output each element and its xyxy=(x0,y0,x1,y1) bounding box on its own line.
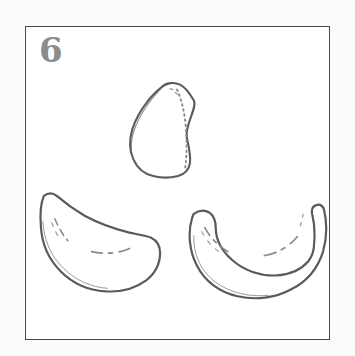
crescent-right-inner-crease-right xyxy=(264,237,297,256)
line-drawing-canvas xyxy=(26,27,329,339)
teardrop-outline xyxy=(130,83,194,178)
figure-root: 6 xyxy=(0,0,355,356)
illustration-frame: 6 xyxy=(25,26,330,340)
crescent-right-outline xyxy=(190,205,327,299)
pear-teardrop-shape xyxy=(130,83,194,178)
crescent-left-outline xyxy=(41,194,161,292)
crescent-right-inner-crease-right-tick xyxy=(300,210,303,226)
crescent-bowl-shape-right xyxy=(190,205,327,299)
crescent-bowl-shape-left xyxy=(41,194,161,292)
